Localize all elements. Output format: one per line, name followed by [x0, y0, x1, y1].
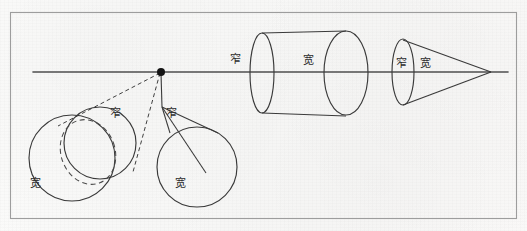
cylinder-bottom-edge — [262, 113, 346, 116]
figure-border-frame — [11, 13, 517, 219]
cylinder-top-edge — [262, 31, 346, 33]
vp-drop-line — [161, 73, 162, 107]
label-right-circle-narrow: 窄 — [166, 108, 177, 119]
label-left-circles-narrow: 窄 — [110, 108, 121, 119]
diagram-page: 窄 宽 窄 宽 窄 宽 窄 宽 — [0, 0, 527, 231]
cone-lower-side — [403, 72, 491, 105]
label-cone-side-wide: 宽 — [420, 58, 431, 69]
label-cylinder-far-narrow: 窄 — [230, 54, 241, 65]
perspective-figure — [0, 0, 527, 231]
sight-line-lower-dashed — [133, 73, 160, 172]
label-right-circle-wide: 宽 — [175, 178, 186, 189]
cone-upper-side — [403, 40, 491, 72]
right-cone-circle — [157, 73, 237, 207]
left-foreshortened-ellipse-dashed — [51, 112, 124, 192]
left-circle-pair — [29, 73, 160, 201]
cylinder-far-ellipse — [250, 33, 274, 113]
cylinder-perspective — [250, 31, 368, 116]
label-cylinder-near-wide: 宽 — [303, 55, 314, 66]
label-left-circles-wide: 宽 — [30, 178, 41, 189]
label-cone-base-narrow: 窄 — [396, 58, 407, 69]
left-small-circle — [64, 107, 136, 179]
cylinder-near-ellipse — [324, 31, 368, 115]
left-large-circle — [29, 115, 115, 201]
vanishing-point-dot — [157, 68, 165, 76]
right-main-circle — [157, 127, 237, 207]
